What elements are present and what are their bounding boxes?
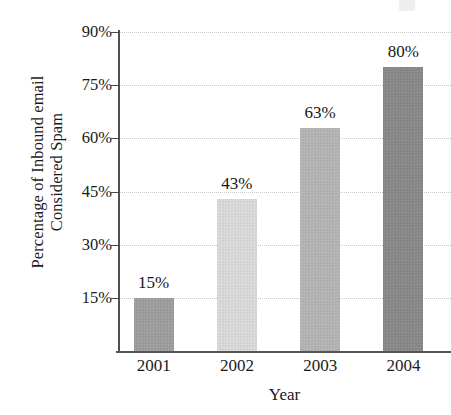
- y-axis-tick-label: 75%: [58, 77, 112, 94]
- y-axis-tick-label: 45%: [58, 183, 112, 200]
- bar-chart-figure: Percentage of Inbound email Considered S…: [0, 0, 451, 415]
- y-axis-tick-label: 60%: [58, 130, 112, 147]
- y-axis-tick-labels: 90%75%60%45%30%15%: [56, 0, 112, 415]
- y-axis-title-line-1: Percentage of Inbound email: [28, 76, 47, 269]
- x-axis-title: Year: [118, 385, 451, 405]
- x-axis-region: Year 2001200220032004: [118, 0, 451, 415]
- y-axis-tick-label: 15%: [58, 290, 112, 307]
- x-axis-tick-label: 2003: [303, 356, 337, 376]
- x-axis-tick-label: 2001: [137, 356, 171, 376]
- y-axis-tick-label: 30%: [58, 236, 112, 253]
- x-axis-tick-label: 2004: [386, 356, 420, 376]
- y-axis-tick-label: 90%: [58, 24, 112, 41]
- x-axis-tick-label: 2002: [220, 356, 254, 376]
